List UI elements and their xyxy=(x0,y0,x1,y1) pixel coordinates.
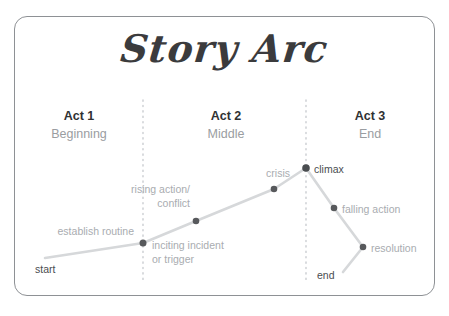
label-climax: climax xyxy=(314,162,344,176)
story-arc-diagram: Story Arc Act 1 Beginning Act 2 Middle A… xyxy=(0,0,449,316)
point-inciting-incident xyxy=(140,240,147,247)
label-start: start xyxy=(35,262,55,276)
point-rising-action xyxy=(193,218,200,225)
label-crisis: crisis xyxy=(232,166,290,180)
point-climax xyxy=(302,164,310,172)
arc-falling-line xyxy=(306,168,363,272)
point-crisis xyxy=(271,186,278,193)
label-rising-action-line2: conflict xyxy=(118,196,190,210)
label-inciting-incident-line2: or trigger xyxy=(152,252,194,266)
label-rising-action-line1: rising action/ xyxy=(118,182,190,196)
label-falling-action: falling action xyxy=(342,202,400,216)
label-inciting-incident-line1: inciting incident xyxy=(152,238,224,252)
point-resolution xyxy=(360,244,367,251)
label-end: end xyxy=(317,268,335,282)
label-resolution: resolution xyxy=(371,241,417,255)
label-establish-routine: establish routine xyxy=(26,224,134,238)
arc-plot xyxy=(0,0,449,316)
point-falling-action xyxy=(331,205,338,212)
